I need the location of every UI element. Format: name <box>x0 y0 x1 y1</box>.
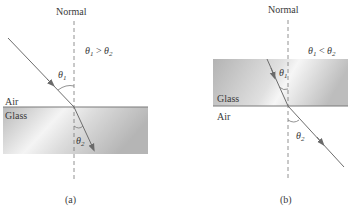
panel-a <box>3 21 148 182</box>
angle-label-1-a: θ1 <box>58 70 66 82</box>
upper-medium-label-b: Glass <box>217 94 239 104</box>
angle-label-1-b: θ1 <box>279 68 287 80</box>
caption-b: (b) <box>280 195 292 205</box>
angle-arc-1-a <box>58 86 74 91</box>
angle-label-2-b: θ2 <box>296 131 304 143</box>
normal-label-a: Normal <box>56 7 87 17</box>
lower-medium-label-b: Air <box>217 112 230 122</box>
relation-label-b: θ1 < θ2 <box>308 46 335 58</box>
upper-medium-label-a: Air <box>5 97 18 107</box>
refracted-arrow-b <box>317 137 322 143</box>
angle-arc-2-b <box>288 120 299 122</box>
refraction-diagram <box>0 0 354 207</box>
normal-label-b: Normal <box>268 5 299 15</box>
caption-a: (a) <box>65 195 76 205</box>
relation-label-a: θ1 > θ2 <box>85 46 112 58</box>
angle-label-2-a: θ2 <box>76 136 84 148</box>
lower-medium-label-a: Glass <box>5 111 27 121</box>
incident-arrow-a <box>47 79 52 84</box>
